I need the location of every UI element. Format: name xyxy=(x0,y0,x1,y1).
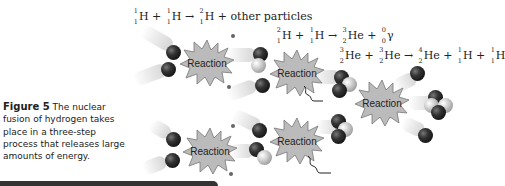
isotope-h1: 11 xyxy=(132,8,138,26)
isotope-h1: 11 xyxy=(165,8,171,26)
equation-step1: 11H + 11H → 21H + other particles xyxy=(132,8,312,26)
neutrino-icon xyxy=(229,172,233,176)
proton-icon xyxy=(255,78,270,93)
isotope-he3: 32 xyxy=(377,47,383,65)
figure-label: Figure 5 xyxy=(3,101,50,112)
section-divider-bar xyxy=(0,181,218,186)
proton-icon xyxy=(410,66,425,81)
equation-step2: 21H + 11H → 32He + 00γ xyxy=(275,27,394,45)
positron-icon xyxy=(231,34,235,38)
neutron-icon xyxy=(251,58,266,73)
isotope-he4: 42 xyxy=(417,47,423,65)
gamma-ray-icon xyxy=(307,155,333,175)
isotope-h1: 11 xyxy=(456,47,462,65)
gamma-ray: 00 xyxy=(380,27,386,45)
proton-icon xyxy=(331,129,346,144)
positron-icon xyxy=(231,124,235,128)
proton-icon xyxy=(166,45,181,60)
isotope-h2: 21 xyxy=(275,27,281,45)
isotope-h1: 11 xyxy=(308,27,314,45)
proton-icon xyxy=(332,83,347,98)
reaction-burst: Reaction xyxy=(180,40,234,86)
proton-icon xyxy=(165,153,180,168)
reaction-burst: Reaction xyxy=(183,128,237,174)
isotope-h1: 11 xyxy=(489,47,495,65)
isotope-he3: 32 xyxy=(341,27,347,45)
equation-step3: 32He + 32He → 42He + 11H + 11H xyxy=(338,47,505,65)
reaction-label: Reaction xyxy=(180,40,234,86)
reaction-label: Reaction xyxy=(183,128,237,174)
proton-icon xyxy=(166,132,181,147)
figure-caption: Figure 5 The nuclear fusion of hydrogen … xyxy=(3,101,131,162)
proton-icon xyxy=(161,62,176,77)
proton-icon xyxy=(252,123,267,138)
isotope-h2: 21 xyxy=(198,8,204,26)
gamma-ray-icon xyxy=(303,85,325,103)
motion-trail xyxy=(226,48,256,62)
proton-icon xyxy=(431,105,446,120)
isotope-he3: 32 xyxy=(338,47,344,65)
proton-icon xyxy=(418,128,433,143)
